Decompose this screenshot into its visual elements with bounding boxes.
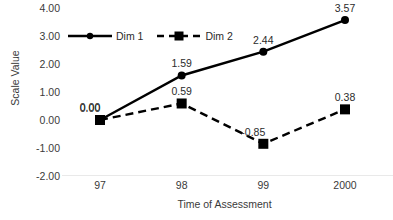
y-tick-label: 0.00 xyxy=(18,115,60,126)
data-point-marker[interactable] xyxy=(95,115,105,125)
data-point-label: 0.59 xyxy=(159,86,205,97)
x-tick-label: 97 xyxy=(70,180,130,192)
series-line-dim-2 xyxy=(100,103,345,143)
x-axis-tick-labels: 97 98 99 2000 xyxy=(62,180,387,196)
x-tick-label: 99 xyxy=(233,180,293,192)
data-point-marker[interactable] xyxy=(177,98,187,108)
x-tick-label: 98 xyxy=(152,180,212,192)
data-point-label: 1.59 xyxy=(159,58,205,69)
data-point-label: -0.85 xyxy=(230,127,276,138)
chart-legend: Dim 1 Dim 2 xyxy=(68,30,233,42)
legend-label-dim-1: Dim 1 xyxy=(116,30,143,42)
data-point-marker[interactable] xyxy=(178,71,186,79)
y-tick-label: 3.00 xyxy=(18,31,60,42)
y-tick-label: -1.00 xyxy=(18,143,60,154)
legend-label-dim-2: Dim 2 xyxy=(205,30,232,42)
y-axis-tick-labels: 4.00 3.00 2.00 1.00 0.00 -1.00 -2.00 xyxy=(14,0,60,220)
data-point-label: 0.38 xyxy=(322,92,368,103)
data-point-label: 2.44 xyxy=(240,35,286,46)
y-tick-label: 4.00 xyxy=(18,3,60,14)
data-point-label: 3.57 xyxy=(322,3,368,14)
legend-entry-dim-1[interactable]: Dim 1 xyxy=(68,30,143,42)
data-point-marker[interactable] xyxy=(340,104,350,114)
x-axis-line xyxy=(62,175,393,176)
legend-line-dashed-square-icon xyxy=(157,30,201,42)
line-chart-figure: Scale Value 4.00 3.00 2.00 1.00 0.00 -1.… xyxy=(0,0,393,220)
y-tick-label: 2.00 xyxy=(18,59,60,70)
y-tick-label: -2.00 xyxy=(18,171,60,182)
x-tick-label: 2000 xyxy=(315,180,375,192)
legend-line-solid-circle-icon xyxy=(68,30,112,42)
data-point-marker[interactable] xyxy=(259,48,267,56)
data-point-marker[interactable] xyxy=(258,139,268,149)
legend-entry-dim-2[interactable]: Dim 2 xyxy=(157,30,232,42)
data-point-marker[interactable] xyxy=(341,16,349,24)
x-axis-title: Time of Assessment xyxy=(62,198,387,210)
data-point-label: 0.00 xyxy=(67,103,113,114)
y-tick-label: 1.00 xyxy=(18,87,60,98)
